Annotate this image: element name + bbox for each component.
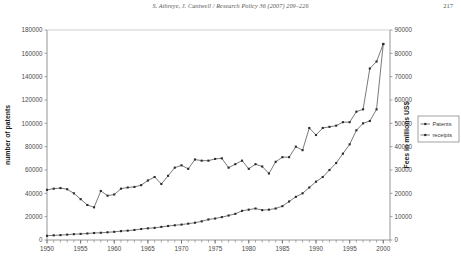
data-point-marker (59, 187, 61, 189)
data-point-marker (241, 210, 243, 212)
data-point-marker (295, 146, 297, 148)
data-point-marker (281, 156, 283, 158)
data-point-marker (376, 108, 378, 110)
data-point-marker (254, 163, 256, 165)
x-axis-tick-label: 1985 (275, 245, 290, 252)
data-point-marker (120, 188, 122, 190)
y-axis-left-tick-label: 0 (39, 236, 43, 243)
data-point-marker (288, 200, 290, 202)
data-point-marker (73, 233, 75, 235)
data-point-marker (46, 189, 48, 191)
data-point-marker (369, 120, 371, 122)
data-point-marker (154, 176, 156, 178)
data-point-marker (140, 228, 142, 230)
data-point-marker (106, 231, 108, 233)
data-point-marker (53, 234, 55, 236)
data-point-marker (308, 127, 310, 129)
data-point-marker (275, 207, 277, 209)
y-axis-right-tick-label: 70000 (395, 73, 413, 80)
data-point-marker (113, 193, 115, 195)
y-axis-right-tick-label: 90000 (395, 26, 413, 33)
data-point-marker (194, 158, 196, 160)
data-point-marker (322, 127, 324, 129)
data-point-marker (302, 149, 304, 151)
data-point-marker (106, 195, 108, 197)
data-point-marker (275, 161, 277, 163)
data-point-marker (93, 206, 95, 208)
data-point-marker (140, 184, 142, 186)
data-point-marker (167, 175, 169, 177)
y-axis-left-tick-label: 140000 (21, 73, 43, 80)
line-chart: 0200004000060000800001000001200001400001… (0, 18, 461, 258)
data-point-marker (214, 217, 216, 219)
data-point-marker (355, 129, 357, 131)
data-point-marker (73, 192, 75, 194)
x-axis-tick-label: 1995 (343, 245, 358, 252)
data-point-marker (46, 235, 48, 237)
figure-chart: 0200004000060000800001000001200001400001… (0, 18, 461, 258)
data-point-marker (261, 209, 263, 211)
data-point-marker (369, 67, 371, 69)
data-point-marker (160, 226, 162, 228)
x-axis-tick-label: 1950 (40, 245, 55, 252)
data-point-marker (248, 209, 250, 211)
data-point-marker (349, 143, 351, 145)
data-point-marker (207, 160, 209, 162)
data-point-marker (234, 163, 236, 165)
data-point-marker (376, 60, 378, 62)
x-axis-tick-label: 2000 (376, 245, 391, 252)
data-point-marker (335, 125, 337, 127)
y-axis-right-tick-label: 80000 (395, 50, 413, 57)
data-point-marker (167, 225, 169, 227)
data-point-marker (201, 220, 203, 222)
data-point-marker (302, 192, 304, 194)
y-axis-left-tick-label: 60000 (25, 166, 43, 173)
data-point-marker (86, 204, 88, 206)
data-point-marker (127, 186, 129, 188)
data-point-marker (187, 168, 189, 170)
data-point-marker (362, 122, 364, 124)
x-axis-tick-label: 1970 (175, 245, 190, 252)
diamond-marker (424, 134, 426, 136)
data-point-marker (362, 108, 364, 110)
data-point-marker (174, 224, 176, 226)
y-axis-right-title: Fees in millions US$ (403, 101, 411, 168)
x-axis-ticks: 1950195519601965197019751980198519901995… (40, 240, 391, 252)
data-point-marker (228, 167, 230, 169)
data-point-marker (147, 227, 149, 229)
data-point-marker (221, 157, 223, 159)
running-head: S. Athreye, J. Cantwell / Research Polic… (0, 2, 461, 9)
data-point-marker (100, 190, 102, 192)
diamond-marker (424, 123, 426, 125)
data-point-marker (147, 179, 149, 181)
data-point-marker (66, 188, 68, 190)
data-point-marker (66, 234, 68, 236)
y-axis-right-tick-label: 20000 (395, 190, 413, 197)
series-receipts (46, 43, 384, 237)
series-patents (46, 43, 384, 208)
data-point-marker (261, 165, 263, 167)
data-point-marker (59, 234, 61, 236)
data-point-marker (207, 218, 209, 220)
data-point-marker (80, 198, 82, 200)
x-axis-tick-label: 1975 (208, 245, 223, 252)
x-axis-tick-label: 1965 (141, 245, 156, 252)
y-axis-left-title: number of patents (4, 105, 12, 165)
y-axis-right-tick-label: 0 (395, 236, 399, 243)
y-axis-left-tick-label: 20000 (25, 213, 43, 220)
y-axis-left-tick-label: 180000 (21, 26, 43, 33)
data-point-marker (93, 232, 95, 234)
y-axis-left-tick-label: 160000 (21, 50, 43, 57)
y-axis-left-tick-label: 80000 (25, 143, 43, 150)
x-axis-tick-label: 1990 (309, 245, 324, 252)
data-point-marker (180, 224, 182, 226)
data-point-marker (268, 209, 270, 211)
data-point-marker (180, 164, 182, 166)
data-point-marker (154, 227, 156, 229)
data-point-marker (268, 172, 270, 174)
data-point-marker (127, 230, 129, 232)
y-axis-left-ticks: 0200004000060000800001000001200001400001… (21, 26, 47, 243)
data-point-marker (342, 153, 344, 155)
x-axis-tick-label: 1960 (107, 245, 122, 252)
data-point-marker (382, 43, 384, 45)
